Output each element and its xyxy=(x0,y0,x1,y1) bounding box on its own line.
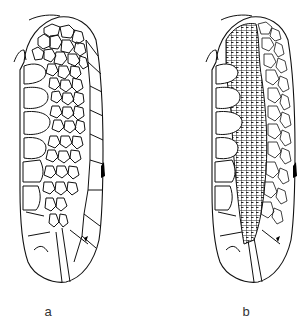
large-scale xyxy=(23,160,43,182)
panel-label-b: b xyxy=(236,304,256,320)
large-scale xyxy=(215,186,232,210)
large-scale xyxy=(24,137,46,158)
scale-drawing-b xyxy=(196,0,299,290)
large-scale xyxy=(23,186,40,210)
panel-b-drawing xyxy=(196,0,299,290)
panel-a-drawing xyxy=(4,0,114,290)
figure: a b xyxy=(0,0,299,332)
large-scale xyxy=(215,160,235,182)
large-scale xyxy=(216,137,238,158)
scale-drawing-a xyxy=(4,0,114,290)
panel-label-a: a xyxy=(38,304,58,320)
